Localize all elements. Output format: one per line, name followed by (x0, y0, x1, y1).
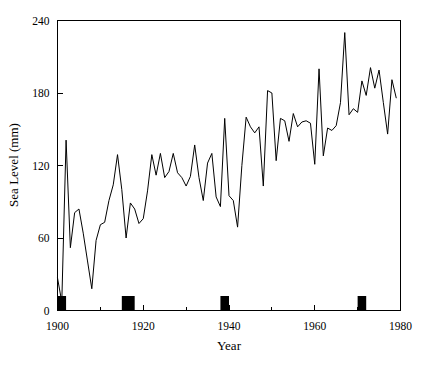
axes-frame (58, 21, 401, 311)
x-tick-label: 1920 (132, 320, 155, 332)
event-marker-bar (58, 296, 67, 311)
y-axis-tick-labels: 060120180240 (32, 15, 50, 317)
y-tick-label: 240 (32, 15, 50, 27)
y-tick-label: 0 (44, 305, 50, 317)
y-tick-label: 60 (38, 232, 50, 244)
sea-level-line (58, 33, 397, 302)
sea-level-chart-figure: 060120180240 19001920194019601980 Year S… (0, 0, 427, 367)
event-marker-bar (220, 296, 229, 311)
event-marker-bar (122, 296, 135, 311)
event-marker-bar (358, 296, 367, 311)
y-axis-title: Sea Level (mm) (6, 123, 21, 207)
data-series-group (58, 33, 397, 302)
x-tick-label: 1980 (389, 320, 412, 332)
x-tick-label: 1900 (46, 320, 69, 332)
y-tick-label: 120 (32, 160, 50, 172)
y-axis-ticks (58, 21, 63, 311)
chart-canvas: 060120180240 19001920194019601980 Year S… (0, 0, 427, 367)
y-tick-label: 180 (32, 87, 50, 99)
plot-frame (58, 21, 401, 311)
x-tick-label: 1960 (303, 320, 326, 332)
x-axis-tick-labels: 19001920194019601980 (46, 320, 412, 332)
event-bar-group (58, 296, 367, 311)
x-axis-title: Year (217, 338, 242, 353)
x-tick-label: 1940 (218, 320, 241, 332)
